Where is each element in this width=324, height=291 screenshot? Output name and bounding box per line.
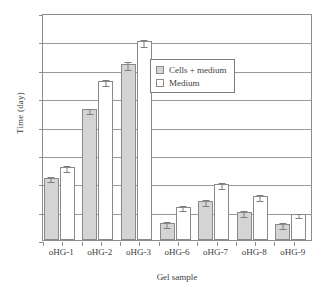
error-bar-cap-bottom — [64, 172, 71, 173]
legend-label: Cells + medium — [169, 65, 227, 75]
error-bar — [160, 222, 175, 228]
error-bar — [214, 183, 229, 189]
error-bar-cap-top — [125, 62, 132, 63]
legend-item: Cells + medium — [156, 63, 227, 76]
x-tick-mark — [178, 242, 179, 246]
legend-swatch-icon — [156, 79, 164, 87]
y-tick-mark — [39, 72, 43, 73]
error-bar — [98, 80, 113, 86]
error-bar — [253, 195, 268, 201]
x-tick-mark — [120, 242, 121, 246]
error-bar-cap-top — [86, 109, 93, 110]
error-bar-cap-top — [257, 195, 264, 196]
error-bar-cap-bottom — [202, 206, 209, 207]
x-tick-mark — [82, 242, 83, 246]
y-tick-mark — [39, 185, 43, 186]
error-bar-cap-top — [48, 177, 55, 178]
x-category-label: oHG-3 — [116, 247, 160, 257]
x-tick-mark — [159, 242, 160, 246]
error-bar-line — [144, 40, 145, 47]
error-bar-cap-top — [164, 222, 171, 223]
error-bar-cap-bottom — [48, 182, 55, 183]
y-tick-mark — [39, 100, 43, 101]
error-bar-cap-top — [279, 223, 286, 224]
error-bar-cap-bottom — [141, 47, 148, 48]
x-category-label: oHG-2 — [78, 247, 122, 257]
x-tick-mark — [139, 242, 140, 246]
x-category-label: oHG-8 — [232, 247, 276, 257]
error-bar — [176, 206, 191, 212]
x-category-label: oHG-6 — [155, 247, 199, 257]
x-category-label: oHG-1 — [39, 247, 83, 257]
error-bar-cap-top — [218, 183, 225, 184]
x-tick-mark — [255, 242, 256, 246]
x-axis-title: Gel sample — [42, 272, 312, 282]
x-tick-mark — [294, 242, 295, 246]
error-bar — [137, 40, 152, 47]
x-tick-mark — [197, 242, 198, 246]
bar — [82, 109, 97, 240]
error-bar-cap-bottom — [86, 114, 93, 115]
error-bar-cap-top — [295, 214, 302, 215]
error-bar — [82, 109, 97, 115]
x-tick-mark — [62, 242, 63, 246]
error-bar-cap-top — [64, 166, 71, 167]
error-bar-cap-bottom — [295, 218, 302, 219]
y-tick-mark — [39, 15, 43, 16]
x-tick-mark — [236, 242, 237, 246]
legend-item: Medium — [156, 76, 227, 89]
x-category-label: oHG-7 — [194, 247, 238, 257]
legend-swatch-icon — [156, 66, 164, 74]
y-tick-mark — [39, 214, 43, 215]
x-tick-mark — [43, 242, 44, 246]
error-bar-cap-bottom — [257, 201, 264, 202]
error-bar-cap-bottom — [279, 229, 286, 230]
bar — [253, 196, 268, 240]
x-category-label: oHG-9 — [271, 247, 315, 257]
error-bar — [121, 62, 136, 70]
plot-area — [42, 14, 312, 241]
error-bar-cap-bottom — [218, 189, 225, 190]
y-tick-mark — [39, 43, 43, 44]
bar — [214, 184, 229, 240]
bar — [121, 64, 136, 240]
y-tick-mark — [39, 157, 43, 158]
error-bar-cap-top — [102, 80, 109, 81]
error-bar — [198, 200, 213, 206]
error-bar-cap-bottom — [241, 217, 248, 218]
error-bar — [237, 211, 252, 217]
bar — [44, 178, 59, 240]
error-bar-cap-top — [141, 40, 148, 41]
error-bar-line — [128, 62, 129, 70]
legend: Cells + mediumMedium — [150, 59, 235, 93]
error-bar-cap-top — [180, 206, 187, 207]
bar-chart-figure: Time (day) 0510152025303540 oHG-1oHG-2oH… — [0, 0, 324, 291]
y-axis-title: Time (day) — [15, 53, 25, 173]
error-bar — [60, 166, 75, 172]
error-bar — [44, 177, 59, 183]
gridline — [43, 100, 311, 101]
error-bar-cap-bottom — [180, 211, 187, 212]
error-bar-cap-bottom — [102, 86, 109, 87]
legend-label: Medium — [169, 78, 200, 88]
error-bar-cap-top — [241, 211, 248, 212]
error-bar-cap-bottom — [164, 228, 171, 229]
error-bar — [275, 223, 290, 229]
bar — [198, 201, 213, 240]
error-bar-cap-bottom — [125, 70, 132, 71]
x-tick-mark — [101, 242, 102, 246]
error-bar-cap-top — [202, 200, 209, 201]
gridline — [43, 43, 311, 44]
y-tick-mark — [39, 129, 43, 130]
error-bar — [291, 214, 306, 219]
bar — [98, 81, 113, 240]
bar — [60, 167, 75, 240]
x-tick-mark — [274, 242, 275, 246]
x-tick-mark — [217, 242, 218, 246]
